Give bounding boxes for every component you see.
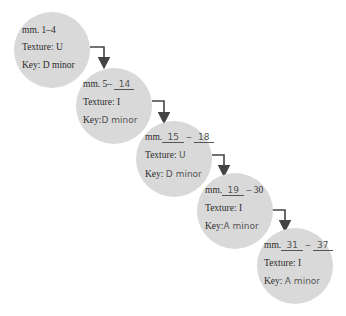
texture-label-1: Texture: U (22, 42, 63, 52)
texture-label-4: Texture: I (205, 203, 242, 213)
measures-label-3: mm.15 – 18 (145, 132, 214, 143)
arrow-4-icon (272, 210, 285, 226)
texture-label-3: Texture: U (145, 150, 185, 160)
key-answer-2: D minor (101, 115, 137, 125)
key-answer-3: D minor (166, 169, 202, 179)
measures-label-1: mm. 1–4 (22, 25, 56, 35)
measure-start-answer-4: 19 (222, 186, 244, 196)
arrow-1-icon (90, 47, 104, 63)
arrow-3-icon (212, 155, 224, 171)
key-label-2: Key:D minor (83, 115, 137, 125)
measures-label-4: mm.19 – 30 (205, 185, 263, 196)
measures-label-5: mm.31 – 37 (264, 240, 333, 251)
key-answer-5: A minor (285, 276, 320, 286)
key-label-4: Key:A minor (205, 221, 259, 231)
texture-answer-3: U (179, 150, 186, 160)
key-answer-4: A minor (223, 221, 258, 231)
texture-label-2: Texture: I (83, 97, 120, 107)
measure-end-answer-5: 37 (313, 241, 333, 251)
key-label-3: Key: D minor (145, 169, 202, 179)
measure-start-answer-3: 15 (162, 133, 184, 143)
measures-label-2: mm. 5– 14 (83, 79, 134, 90)
texture-label-5: Texture: I (264, 258, 301, 268)
key-label-1: Key: D minor (22, 60, 75, 70)
key-label-5: Key: A minor (264, 276, 320, 286)
arrow-2-icon (152, 101, 164, 118)
measure-end-answer-3: 18 (194, 133, 214, 143)
measure-start-answer-5: 31 (281, 241, 303, 251)
measure-end-answer-2: 14 (114, 80, 134, 90)
